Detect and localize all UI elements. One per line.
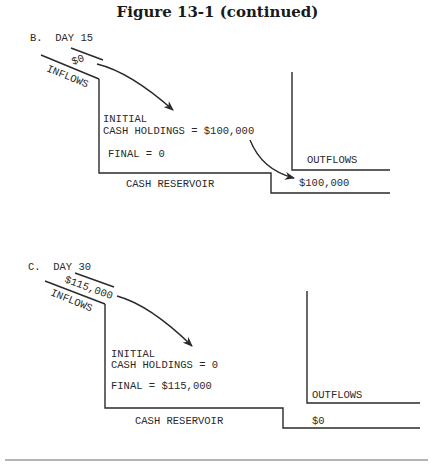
- inflow-amount: $0: [70, 52, 86, 68]
- cash-reservoir-diagram: B. DAY 15 $0 INFLOWS INITIAL CASH HOLDIN…: [0, 0, 435, 471]
- outflow-label: OUTFLOWS: [312, 389, 362, 401]
- initial-cash-holdings: CASH HOLDINGS = $100,000: [103, 125, 254, 137]
- final-value: FINAL = 0: [108, 148, 165, 160]
- outflow-label: OUTFLOWS: [307, 154, 357, 166]
- reservoir-label: CASH RESERVOIR: [135, 415, 224, 427]
- inflow-label: INFLOWS: [45, 63, 90, 91]
- initial-cash-holdings: CASH HOLDINGS = 0: [111, 359, 218, 371]
- outflow-amount: $0: [312, 415, 325, 427]
- outflow-outline: [307, 291, 420, 403]
- panel-c: C. DAY 30 $115,000 INFLOWS INITIAL CASH …: [28, 261, 420, 428]
- final-value: FINAL = $115,000: [111, 380, 212, 392]
- panel-b: B. DAY 15 $0 INFLOWS INITIAL CASH HOLDIN…: [30, 32, 390, 193]
- inflow-arrow-icon: [97, 64, 173, 110]
- inflow-arrow-icon: [117, 296, 192, 346]
- initial-label: INITIAL: [103, 113, 147, 125]
- panel-c-label: C. DAY 30: [28, 261, 91, 273]
- panel-b-label: B. DAY 15: [30, 32, 93, 44]
- reservoir-label: CASH RESERVOIR: [126, 178, 215, 190]
- outflow-amount: $100,000: [299, 177, 349, 189]
